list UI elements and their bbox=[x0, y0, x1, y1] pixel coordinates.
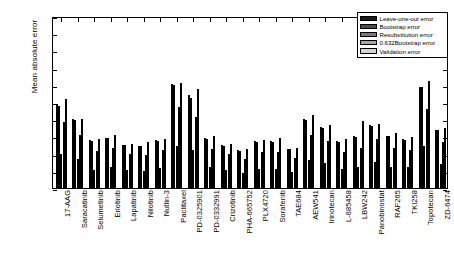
x-axis-tick-mark bbox=[259, 184, 260, 188]
x-axis-tick-label: PHA-665752 bbox=[245, 190, 254, 233]
y-axis-tick-mark bbox=[53, 121, 57, 122]
x-axis-tick-label: Crizotinib bbox=[228, 190, 237, 222]
bar-group bbox=[70, 18, 87, 188]
x-axis-tick-mark bbox=[177, 184, 178, 188]
bar-group bbox=[251, 18, 268, 188]
bar bbox=[131, 144, 133, 188]
x-axis-tick-label: Sorafenib bbox=[278, 190, 287, 223]
bar bbox=[147, 142, 149, 188]
bar-group bbox=[301, 18, 318, 188]
x-axis-tick-mark bbox=[111, 18, 112, 22]
x-axis-tick-label: L-685458 bbox=[344, 190, 353, 222]
bar-group bbox=[169, 18, 186, 188]
x-axis-tick-mark bbox=[78, 18, 79, 22]
bar bbox=[81, 119, 83, 188]
legend-swatch bbox=[360, 24, 377, 29]
x-axis-tick-mark bbox=[375, 184, 376, 188]
x-axis-tick-mark bbox=[193, 184, 194, 188]
bar bbox=[345, 139, 347, 188]
x-axis-tick-mark bbox=[276, 18, 277, 22]
x-axis-tick-mark bbox=[243, 184, 244, 188]
y-axis-tick-mark bbox=[443, 87, 447, 88]
y-axis-tick-mark bbox=[53, 87, 57, 88]
x-axis-tick-mark bbox=[177, 18, 178, 22]
bar bbox=[444, 128, 446, 188]
x-axis-tick-mark bbox=[226, 184, 227, 188]
x-axis-tick-mark bbox=[210, 184, 211, 188]
x-axis-tick-mark bbox=[292, 184, 293, 188]
x-axis-tick-mark bbox=[309, 184, 310, 188]
y-axis-tick-mark bbox=[443, 138, 447, 139]
legend-item: Validation error bbox=[360, 47, 445, 55]
bar-group bbox=[119, 18, 136, 188]
x-axis-tick-mark bbox=[391, 184, 392, 188]
x-axis-tick-label: Lapatinib bbox=[129, 190, 138, 221]
x-axis-tick-label: TAE684 bbox=[294, 190, 303, 217]
x-axis-tick-label: RAF265 bbox=[393, 190, 402, 218]
legend-item: Leave-one-out error bbox=[360, 15, 445, 23]
bar-chart-figure: Mean absolute error 00.020.040.060.080.1… bbox=[0, 0, 454, 258]
x-axis-tick-mark bbox=[61, 18, 62, 22]
x-axis-tick-mark bbox=[276, 184, 277, 188]
bar bbox=[213, 136, 215, 188]
bar-group bbox=[235, 18, 252, 188]
bar bbox=[362, 121, 364, 188]
x-axis-tick-mark bbox=[325, 18, 326, 22]
y-axis-tick-mark bbox=[53, 156, 57, 157]
x-axis-tick-mark bbox=[358, 184, 359, 188]
legend-item: Bootstrap error bbox=[360, 23, 445, 31]
bar bbox=[230, 144, 232, 188]
bar bbox=[378, 124, 380, 189]
bar bbox=[329, 125, 331, 188]
x-axis-tick-mark bbox=[243, 18, 244, 22]
bar-group bbox=[218, 18, 235, 188]
y-axis-title: Mean absolute error bbox=[30, 0, 39, 137]
bar-group bbox=[103, 18, 120, 188]
legend-label: Validation error bbox=[380, 48, 421, 55]
x-axis-tick-mark bbox=[160, 184, 161, 188]
legend-swatch bbox=[360, 16, 377, 21]
x-axis-tick-label: Paclitaxel bbox=[179, 190, 188, 223]
legend-label: Bootstrap error bbox=[380, 23, 421, 30]
x-axis-tick-mark bbox=[111, 184, 112, 188]
x-axis-tick-mark bbox=[144, 18, 145, 22]
x-axis-tick-mark bbox=[441, 184, 442, 188]
x-axis-tick-label: Erlotinib bbox=[113, 190, 122, 218]
bar bbox=[114, 135, 116, 188]
bar bbox=[428, 81, 430, 188]
x-axis-tick-mark bbox=[127, 18, 128, 22]
bar-group bbox=[268, 18, 285, 188]
bar-group bbox=[53, 18, 70, 188]
bar-group bbox=[136, 18, 153, 188]
x-axis-tick-label: Saracatinib bbox=[80, 190, 89, 228]
x-axis-tick-mark bbox=[408, 184, 409, 188]
x-axis-tick-mark bbox=[193, 18, 194, 22]
bar bbox=[197, 89, 199, 188]
x-axis-tick-label: AEW541 bbox=[311, 190, 320, 220]
x-axis-tick-label: Selumetinib bbox=[96, 190, 105, 230]
legend-swatch bbox=[360, 48, 377, 53]
x-axis-tick-mark bbox=[127, 184, 128, 188]
x-axis-tick-mark bbox=[94, 18, 95, 22]
bar-group bbox=[202, 18, 219, 188]
chart-legend: Leave-one-out errorBootstrap errorResubs… bbox=[357, 12, 448, 58]
x-axis-tick-label: Panobinostat bbox=[377, 190, 386, 234]
y-axis-tick-mark bbox=[53, 18, 57, 19]
legend-label: Resubstitution error bbox=[380, 31, 433, 38]
x-axis-tick-label: ZD-6474 bbox=[443, 190, 452, 219]
x-axis-tick-mark bbox=[342, 18, 343, 22]
y-axis-tick-mark bbox=[443, 173, 447, 174]
x-axis-tick-mark bbox=[342, 184, 343, 188]
legend-label: 0.632Bootstrap error bbox=[380, 39, 436, 46]
x-axis-tick-label: Irinotecan bbox=[327, 190, 336, 223]
bar-group bbox=[185, 18, 202, 188]
y-axis-tick-mark bbox=[53, 104, 57, 105]
x-axis-tick-label: Topotecan bbox=[426, 190, 435, 225]
x-axis-tick-mark bbox=[160, 18, 161, 22]
bar-group bbox=[284, 18, 301, 188]
x-axis-tick-mark bbox=[424, 184, 425, 188]
legend-swatch bbox=[360, 40, 377, 45]
y-axis-tick-mark bbox=[53, 35, 57, 36]
legend-label: Leave-one-out error bbox=[380, 15, 434, 22]
x-axis-tick-mark bbox=[78, 184, 79, 188]
